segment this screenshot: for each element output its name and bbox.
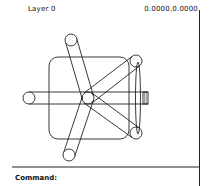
center-hub[interactable] [82, 92, 94, 104]
base-leg-bottom-right [92, 93, 140, 129]
castor-wheel-left[interactable] [23, 92, 35, 104]
castor-wheel-bottom-right[interactable] [130, 127, 142, 139]
base-leg-top-right [84, 57, 132, 94]
drawing-canvas[interactable] [0, 0, 215, 186]
base-leg-bottom [64, 96, 83, 153]
adjust-knob[interactable] [143, 92, 148, 104]
castor-wheel-bottom[interactable] [63, 149, 75, 161]
base-leg-bottom-right [84, 103, 132, 138]
castor-wheel-top-right[interactable] [130, 55, 142, 67]
base-leg-bottom [75, 100, 94, 157]
base-leg-top-right [92, 66, 140, 104]
chair-backrest[interactable] [136, 62, 141, 134]
castor-wheel-top[interactable] [65, 34, 77, 46]
command-prompt[interactable]: Command: [15, 174, 57, 182]
